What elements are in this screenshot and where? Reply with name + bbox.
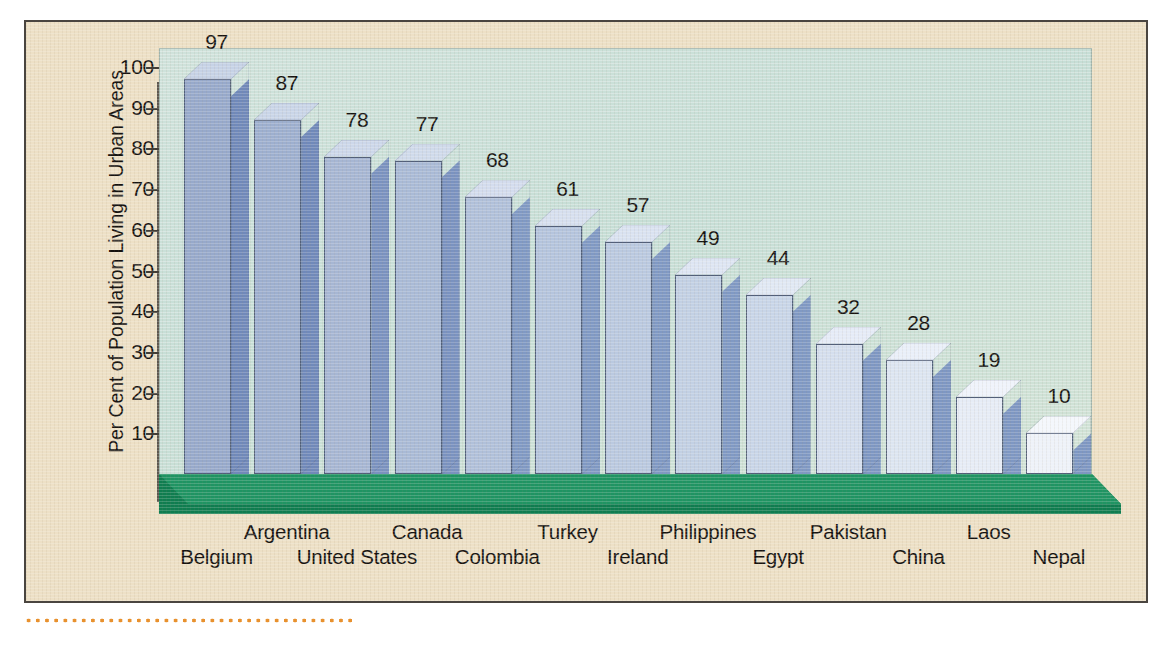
x-axis-label-united-states: United States [282, 544, 432, 569]
x-axis-label-colombia: Colombia [422, 544, 572, 569]
x-axis-label-laos: Laos [914, 519, 1064, 544]
x-axis-label-turkey: Turkey [493, 519, 643, 544]
x-axis-label-nepal: Nepal [984, 544, 1134, 569]
x-axis-label-pakistan: Pakistan [773, 519, 923, 544]
chart-card: Per Cent of Population Living in Urban A… [24, 20, 1148, 603]
dotted-rule-icon [24, 618, 356, 623]
x-axis-label-philippines: Philippines [633, 519, 783, 544]
x-axis-label-argentina: Argentina [212, 519, 362, 544]
x-axis-label-belgium: Belgium [142, 544, 292, 569]
x-axis-label-ireland: Ireland [563, 544, 713, 569]
x-axis-label-egypt: Egypt [703, 544, 853, 569]
x-axis-label-canada: Canada [352, 519, 502, 544]
x-axis-category-labels: BelgiumArgentinaUnited StatesCanadaColom… [26, 22, 1150, 605]
x-axis-label-china: China [844, 544, 994, 569]
